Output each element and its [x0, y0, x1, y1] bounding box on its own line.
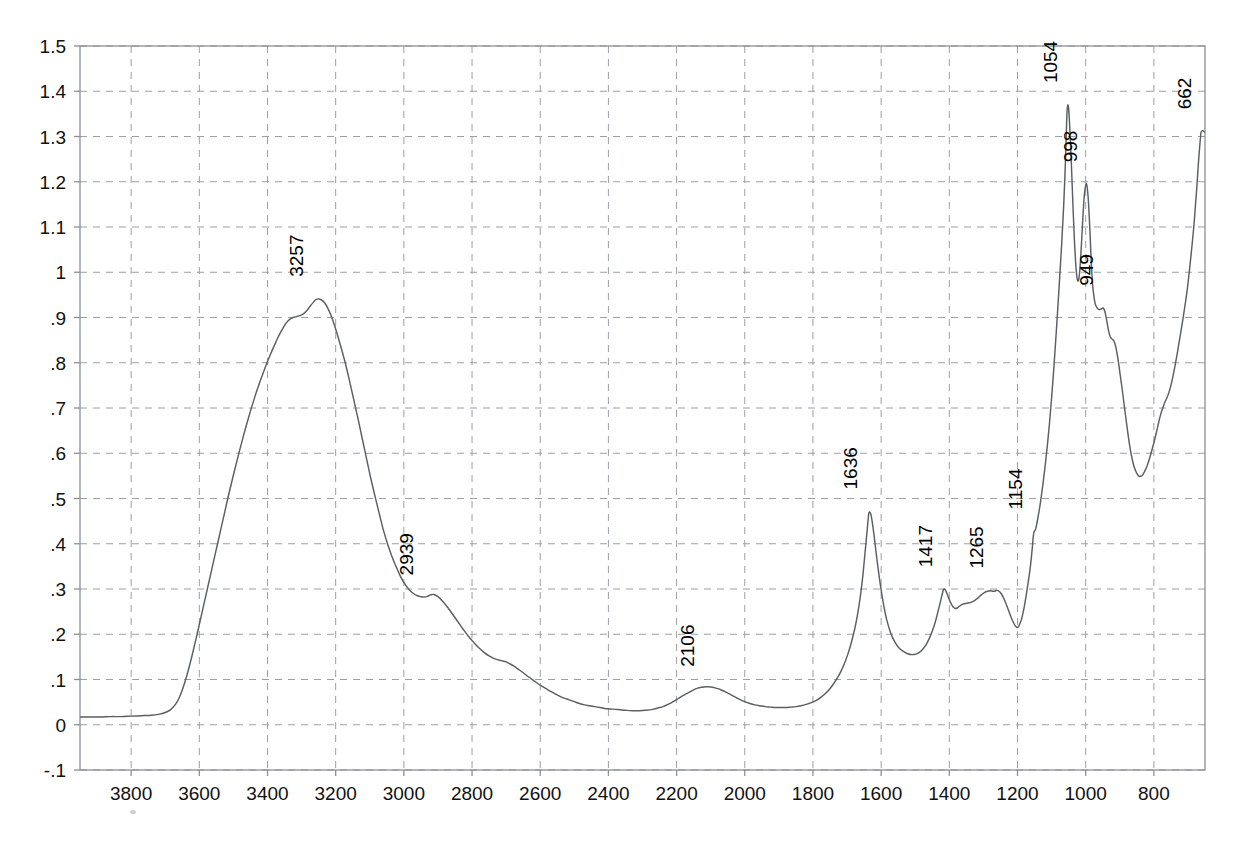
peak-label-1265: 1265: [966, 526, 987, 568]
x-axis-tick-label: 3800: [110, 783, 152, 804]
y-axis-tick-label: -.1: [44, 760, 66, 781]
y-axis-tick-label: 1.1: [40, 217, 66, 238]
y-axis-tick-label: 0: [55, 715, 66, 736]
x-axis-tick-label: 1400: [928, 783, 970, 804]
y-axis-tick-label: 1.3: [40, 127, 66, 148]
x-axis-tick-label: 3400: [246, 783, 288, 804]
ir-spectrum-chart: 1.51.41.31.21.11.9.8.7.6.5.4.3.2.10-.1 3…: [0, 0, 1253, 843]
y-axis-tick-label: .6: [50, 443, 66, 464]
x-axis-tick-label: 2600: [519, 783, 561, 804]
grid-layer: [80, 46, 1205, 770]
peak-label-1417: 1417: [915, 525, 936, 567]
x-axis-tick-label: 3600: [178, 783, 220, 804]
y-axis-tick-label: 1.5: [40, 36, 66, 57]
peak-label-949: 949: [1076, 254, 1097, 286]
y-axis-tick-label: 1: [55, 262, 66, 283]
y-axis-tick-label: .8: [50, 353, 66, 374]
spectrum-curve-layer: [80, 105, 1205, 717]
y-axis-tick-label: .4: [50, 534, 66, 555]
y-axis-tick-label: .1: [50, 670, 66, 691]
peak-label-1636: 1636: [840, 447, 861, 489]
spectrum-plot-svg: 1.51.41.31.21.11.9.8.7.6.5.4.3.2.10-.1 3…: [0, 0, 1253, 843]
x-axis-tick-label: 1000: [1065, 783, 1107, 804]
x-axis-tick-label: 2800: [451, 783, 493, 804]
x-axis-tick-label: 3200: [315, 783, 357, 804]
y-axis-tick-label: .9: [50, 308, 66, 329]
y-axis-tick-label: 1.4: [40, 81, 67, 102]
peak-label-1154: 1154: [1005, 468, 1026, 509]
peak-label-3257: 3257: [286, 235, 307, 277]
x-axis-tick-labels: 3800360034003200300028002600240022002000…: [110, 783, 1170, 804]
scan-artifact-layer: [130, 810, 136, 814]
peak-label-2939: 2939: [396, 533, 417, 575]
x-axis-tick-label: 1200: [996, 783, 1038, 804]
x-axis-tick-label: 1800: [792, 783, 834, 804]
peak-label-2106: 2106: [677, 625, 698, 667]
y-axis-tick-label: .3: [50, 579, 66, 600]
y-axis-tick-label: .2: [50, 624, 66, 645]
x-axis-tick-label: 3000: [383, 783, 425, 804]
peak-label-998: 998: [1060, 131, 1081, 163]
plot-frame: [74, 46, 1205, 776]
x-axis-tick-label: 1600: [860, 783, 902, 804]
spectrum-curve: [80, 105, 1205, 717]
x-axis-tick-label: 2400: [587, 783, 629, 804]
paper-speck: [130, 810, 136, 814]
x-axis-tick-label: 800: [1138, 783, 1170, 804]
y-axis-tick-label: .5: [50, 489, 66, 510]
x-axis-tick-label: 2200: [655, 783, 697, 804]
peak-label-1054: 1054: [1040, 40, 1061, 83]
y-axis-tick-label: .7: [50, 398, 66, 419]
peak-label-662: 662: [1174, 78, 1195, 110]
peak-annotation-layer: 3257293921061636141712651154105499894966…: [286, 40, 1195, 666]
y-axis-tick-label: 1.2: [40, 172, 66, 193]
y-axis-tick-labels: 1.51.41.31.21.11.9.8.7.6.5.4.3.2.10-.1: [40, 36, 67, 781]
x-axis-tick-label: 2000: [724, 783, 766, 804]
